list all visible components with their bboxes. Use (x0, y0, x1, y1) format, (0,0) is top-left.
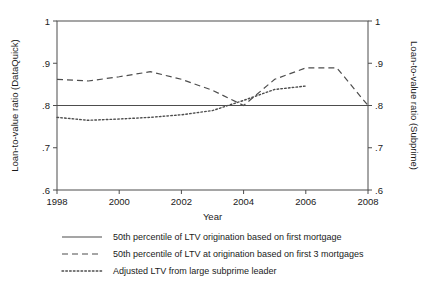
x-tick-label: 2006 (295, 196, 316, 207)
x-axis-title: Year (203, 211, 222, 222)
legend-label-dashed: 50th percentile of LTV at origination ba… (113, 249, 364, 259)
x-tick-label: 2004 (233, 196, 254, 207)
y-axis-title-right: Loan-to-value ratio (Subprime) (409, 41, 420, 170)
series-line-dashed (57, 68, 368, 106)
y-axis-title-left: Loan-to-value ratio (DataQuick) (9, 39, 20, 172)
x-tick-label: 2008 (357, 196, 378, 207)
series-line-dotted (57, 86, 306, 120)
x-tick-label: 1998 (46, 196, 67, 207)
x-tick-label: 2002 (171, 196, 192, 207)
x-tick-label: 2000 (109, 196, 130, 207)
y-tick-label-left: 1 (45, 16, 50, 27)
y-tick-label-left: .8 (42, 100, 50, 111)
ltv-line-chart: .6.7.8.91.6.7.8.911998200020022004200620… (0, 0, 429, 288)
y-tick-label-right: 1 (375, 16, 380, 27)
legend-label-solid: 50th percentile of LTV origination based… (113, 232, 341, 242)
y-tick-label-right: .9 (375, 58, 383, 69)
chart-figure: .6.7.8.91.6.7.8.911998200020022004200620… (0, 0, 429, 288)
y-tick-label-right: .7 (375, 142, 383, 153)
y-tick-label-right: .8 (375, 100, 383, 111)
legend-label-dotted: Adjusted LTV from large subprime leader (113, 266, 276, 276)
y-tick-label-left: .9 (42, 58, 50, 69)
y-tick-label-right: .6 (375, 185, 383, 196)
y-tick-label-left: .7 (42, 142, 50, 153)
y-tick-label-left: .6 (42, 185, 50, 196)
